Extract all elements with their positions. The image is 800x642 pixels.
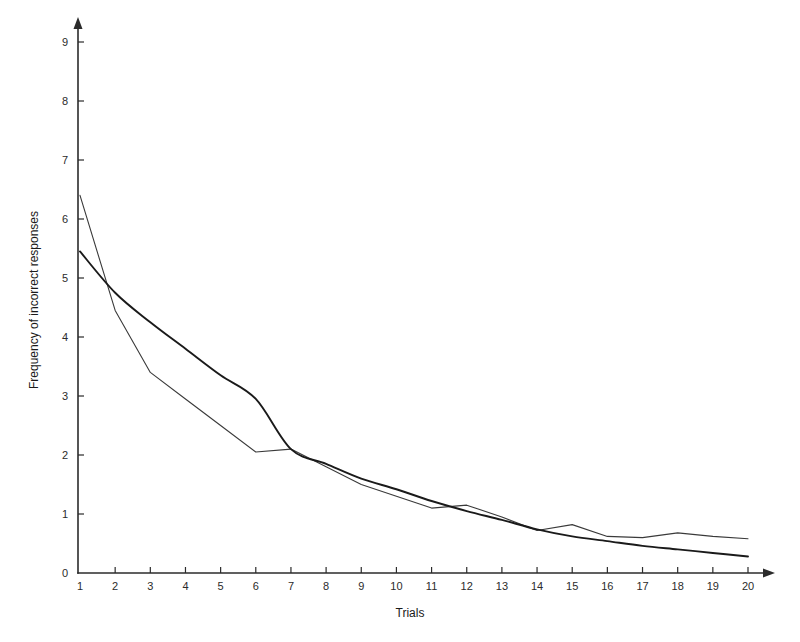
x-tick-label: 20 <box>742 580 754 592</box>
y-tick-label: 9 <box>62 36 68 48</box>
x-axis: 1234567891011121314151617181920 <box>77 567 775 592</box>
y-axis: 0123456789 <box>62 17 84 579</box>
x-tick-label: 16 <box>601 580 613 592</box>
x-tick-label: 7 <box>288 580 294 592</box>
series-line-observed <box>80 195 748 538</box>
y-tick-label: 3 <box>62 390 68 402</box>
x-tick-label: 19 <box>707 580 719 592</box>
x-tick-label: 9 <box>358 580 364 592</box>
x-axis-title: Trials <box>396 606 425 620</box>
y-tick-label: 0 <box>62 567 68 579</box>
x-tick-label: 12 <box>461 580 473 592</box>
y-axis-arrow-icon <box>74 17 83 29</box>
y-tick-label: 7 <box>62 154 68 166</box>
x-tick-label: 13 <box>496 580 508 592</box>
y-tick-label: 1 <box>62 508 68 520</box>
chart-figure: 0123456789 12345678910111213141516171819… <box>0 0 800 642</box>
x-tick-label: 5 <box>218 580 224 592</box>
y-tick-label: 2 <box>62 449 68 461</box>
x-tick-label: 17 <box>636 580 648 592</box>
x-tick-label: 11 <box>426 580 437 592</box>
y-tick-label: 6 <box>62 213 68 225</box>
y-tick-label: 5 <box>62 272 68 284</box>
x-tick-label: 6 <box>253 580 259 592</box>
y-tick-label: 4 <box>62 331 68 343</box>
x-tick-label: 10 <box>390 580 402 592</box>
x-tick-label: 1 <box>77 580 83 592</box>
chart-plot-area: 0123456789 12345678910111213141516171819… <box>0 0 800 642</box>
data-series-group <box>80 195 748 556</box>
x-tick-label: 4 <box>182 580 188 592</box>
y-axis-title: Frequency of incorrect responses <box>27 211 41 389</box>
x-tick-label: 2 <box>112 580 118 592</box>
y-tick-label: 8 <box>62 95 68 107</box>
x-tick-label: 14 <box>531 580 543 592</box>
x-tick-label: 15 <box>566 580 578 592</box>
x-tick-label: 18 <box>672 580 684 592</box>
series-line-fitted <box>80 251 748 556</box>
x-axis-arrow-icon <box>763 569 775 578</box>
x-tick-group: 1234567891011121314151617181920 <box>77 567 754 592</box>
y-tick-group: 0123456789 <box>62 36 84 579</box>
x-tick-label: 8 <box>323 580 329 592</box>
x-tick-label: 3 <box>147 580 153 592</box>
